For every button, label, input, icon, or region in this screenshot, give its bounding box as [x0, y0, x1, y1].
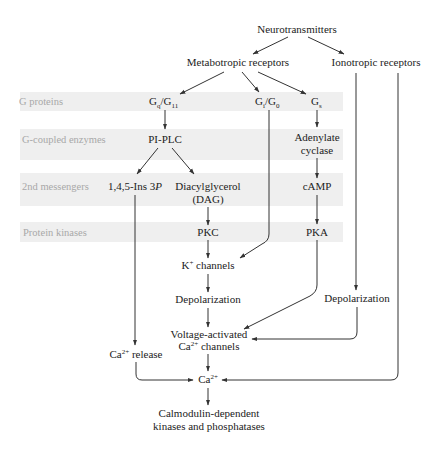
- node-ca2plus: Ca2+: [198, 373, 218, 385]
- node-neurotransmitters: Neurotransmitters: [257, 23, 336, 35]
- node-metabotropic-receptors: Metabotropic receptors: [187, 56, 289, 68]
- arrow-nt-to-ionotropic: [308, 37, 344, 54]
- node-voltage-activated-line1: Voltage-activated: [171, 328, 248, 340]
- node-ionotropic-receptors: Ionotropic receptors: [332, 56, 421, 68]
- row-label-2nd-messengers: 2nd messengers: [22, 181, 89, 192]
- node-dag-line1: Diacylglycerol: [175, 180, 240, 192]
- node-adenylate-cyclase-line1: Adenylate: [294, 131, 339, 143]
- arrow-metabotropic-to-gs: [258, 72, 306, 94]
- node-dag-line2: (DAG): [192, 193, 223, 206]
- node-ins3p: 1,4,5-Ins 3P: [108, 180, 162, 192]
- node-voltage-activated-line2: Ca2+ channels: [179, 340, 240, 352]
- arrow-nt-to-metabotropic: [253, 37, 288, 54]
- arrow-metabotropic-to-gq: [180, 72, 224, 94]
- node-pi-plc: PI-PLC: [148, 133, 182, 145]
- arrow-depol-right-to-vac: [252, 307, 357, 339]
- row-label-g-coupled-enzymes: G-coupled enzymes: [22, 134, 106, 145]
- node-calmodulin-line2: kinases and phosphatases: [153, 420, 265, 432]
- signaling-pathway-diagram: G proteins G-coupled enzymes 2nd messeng…: [0, 0, 434, 449]
- arrow-pka-to-vac: [244, 240, 317, 329]
- node-calmodulin-line1: Calmodulin-dependent: [159, 407, 260, 419]
- row-label-g-proteins: G proteins: [19, 96, 63, 107]
- node-adenylate-cyclase-line2: cyclase: [301, 144, 333, 156]
- node-pka: PKA: [306, 226, 328, 238]
- node-depolarization-left: Depolarization: [175, 293, 241, 305]
- node-pkc: PKC: [197, 226, 218, 238]
- row-label-protein-kinases: Protein kinases: [23, 227, 87, 238]
- row-band-g-proteins: [20, 92, 343, 111]
- node-depolarization-right: Depolarization: [324, 292, 390, 304]
- node-camp: cAMP: [303, 180, 332, 192]
- node-k-channels: K+ channels: [181, 259, 234, 271]
- arrow-metabotropic-to-gi: [242, 72, 259, 92]
- node-ca-release: Ca2+ release: [110, 348, 163, 360]
- arrow-ca-release-to-ca: [136, 362, 193, 380]
